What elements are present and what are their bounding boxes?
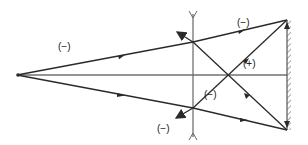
lower-ray [17,75,287,130]
label-reflected-plus: (+) [243,58,256,69]
label-center-minus: (−) [204,89,217,100]
label-lower-left: (−) [157,123,170,134]
label-upper-incident: (−) [58,41,71,52]
optics-diagram: (−) (−) (+) (−) (−) [0,0,308,145]
label-upper-right: (−) [237,17,250,28]
plane-mirror [287,20,291,130]
